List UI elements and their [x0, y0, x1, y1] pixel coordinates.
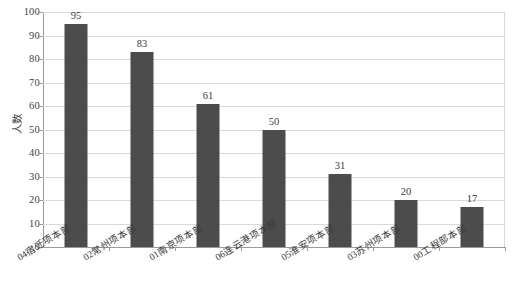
y-axis-tick-label: 40	[6, 148, 40, 158]
bar-chart: 人数 1009080706050403020100 95836150312017…	[0, 0, 512, 304]
bar-value-label: 20	[401, 186, 412, 197]
bar-value-label: 17	[467, 193, 478, 204]
bar-value-label: 50	[269, 116, 280, 127]
bar[interactable]	[65, 24, 88, 247]
bar[interactable]	[131, 52, 154, 247]
x-axis-tick-mark	[505, 247, 506, 251]
y-axis-tick-label: 60	[6, 101, 40, 111]
plot-area: 95836150312017	[43, 12, 505, 247]
bar-slot: 50	[241, 12, 307, 247]
bar-value-label: 31	[335, 160, 346, 171]
y-axis-tick-label: 70	[6, 78, 40, 88]
bar-slot: 31	[307, 12, 373, 247]
y-axis-tick-label: 90	[6, 31, 40, 41]
y-axis-tick-label: 100	[6, 7, 40, 17]
bar-slot: 17	[439, 12, 505, 247]
y-axis-tick-label: 20	[6, 195, 40, 205]
bar-slot: 61	[175, 12, 241, 247]
y-axis-tick-label: 30	[6, 172, 40, 182]
bar-value-label: 83	[137, 38, 148, 49]
bar-value-label: 61	[203, 90, 214, 101]
bar-value-label: 95	[71, 10, 82, 21]
y-axis-tick-label: 50	[6, 125, 40, 135]
y-axis-tick-label: 10	[6, 219, 40, 229]
bar-slot: 95	[43, 12, 109, 247]
bar-slot: 20	[373, 12, 439, 247]
y-axis-tick-label: 80	[6, 54, 40, 64]
bar[interactable]	[329, 174, 352, 247]
bar-slot: 83	[109, 12, 175, 247]
